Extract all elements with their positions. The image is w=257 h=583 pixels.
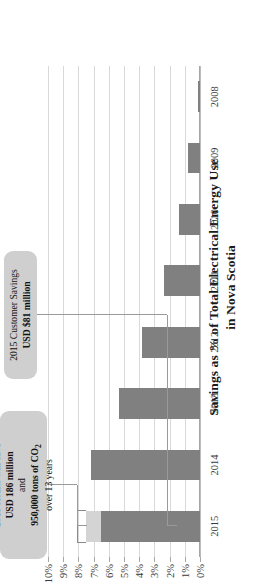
- category-axis-label: 2015: [209, 516, 220, 537]
- value-axis-tick-label: 5%: [119, 564, 130, 578]
- bar-segment-cumulative: [164, 265, 200, 296]
- callout-line: 950,000 tons of CO2: [29, 443, 44, 526]
- axis-tick: [200, 557, 201, 562]
- axis-tick: [154, 557, 155, 562]
- category-axis-label: 2011: [209, 271, 220, 292]
- value-axis-tick-label: 0%: [195, 564, 206, 578]
- callout-line: USD $81 million: [21, 269, 33, 361]
- axis-tick: [78, 557, 79, 562]
- callout-line: over 13 years: [43, 443, 55, 526]
- bar-segment-cumulative: [198, 81, 200, 112]
- value-axis-tick-label: 7%: [88, 564, 99, 578]
- callout-line: 2015 Customer Savings: [8, 269, 20, 361]
- callout-line: and: [16, 443, 28, 526]
- bar-group: 2012: [48, 327, 200, 358]
- axis-tick: [48, 557, 49, 562]
- value-axis-tick-label: 1%: [179, 564, 190, 578]
- value-axis-tick-label: 9%: [58, 564, 69, 578]
- category-axis-label: 2014: [209, 454, 220, 475]
- callout-leader-line-customer: [37, 314, 167, 315]
- axis-tick: [63, 557, 64, 562]
- bar-group: 2013: [48, 388, 200, 419]
- bar-group: 2008: [48, 81, 200, 112]
- callout-leader-drop: [77, 525, 87, 526]
- callout-savings: 2015 results will saveUSD 186 millionand…: [0, 411, 47, 559]
- chart-title-line2: in Nova Scotia: [223, 0, 240, 575]
- bar-group: 2009: [48, 143, 200, 174]
- bar-group: 2015: [48, 511, 200, 542]
- axis-tick: [109, 557, 110, 562]
- category-axis-label: 2010: [209, 209, 220, 230]
- increment-bracket: [77, 510, 86, 543]
- value-axis-tick-label: 10%: [43, 564, 54, 583]
- callout-customer-savings-text: 2015 Customer SavingsUSD $81 million: [8, 269, 33, 361]
- bar-segment-increment: [86, 511, 101, 542]
- value-axis-tick-label: 8%: [73, 564, 84, 578]
- bar-segment-cumulative: [188, 143, 200, 174]
- bar-segment-cumulative: [119, 388, 200, 419]
- axis-tick: [124, 557, 125, 562]
- value-axis-tick-label: 4%: [134, 564, 145, 578]
- callout-leader-drop: [167, 525, 177, 526]
- value-axis-tick-label: 3%: [149, 564, 160, 578]
- bar-group: 2011: [48, 265, 200, 296]
- callout-leader-connector: [167, 315, 168, 526]
- category-axis-label: 2012: [209, 332, 220, 353]
- callout-savings-text: 2015 results will saveUSD 186 millionand…: [0, 443, 56, 526]
- axis-tick: [139, 557, 140, 562]
- axis-tick: [170, 557, 171, 562]
- axis-tick: [94, 557, 95, 562]
- bar-group: 2010: [48, 204, 200, 235]
- axis-tick: [185, 557, 186, 562]
- gridline: [200, 66, 201, 557]
- bar-segment-cumulative: [91, 450, 200, 481]
- category-axis-label: 2009: [209, 148, 220, 169]
- bar-group: 2014: [48, 450, 200, 481]
- callout-line: USD 186 million: [4, 443, 16, 526]
- bar-segment-cumulative: [142, 327, 200, 358]
- callout-leader-connector: [77, 485, 78, 526]
- callout-customer-savings: 2015 Customer SavingsUSD $81 million: [4, 251, 37, 379]
- category-axis-label: 2008: [209, 86, 220, 107]
- value-axis-tick-label: 6%: [103, 564, 114, 578]
- bar-segment-cumulative: [101, 511, 200, 542]
- bar-segment-cumulative: [179, 204, 200, 235]
- value-axis-tick-label: 2%: [164, 564, 175, 578]
- category-axis-label: 2013: [209, 393, 220, 414]
